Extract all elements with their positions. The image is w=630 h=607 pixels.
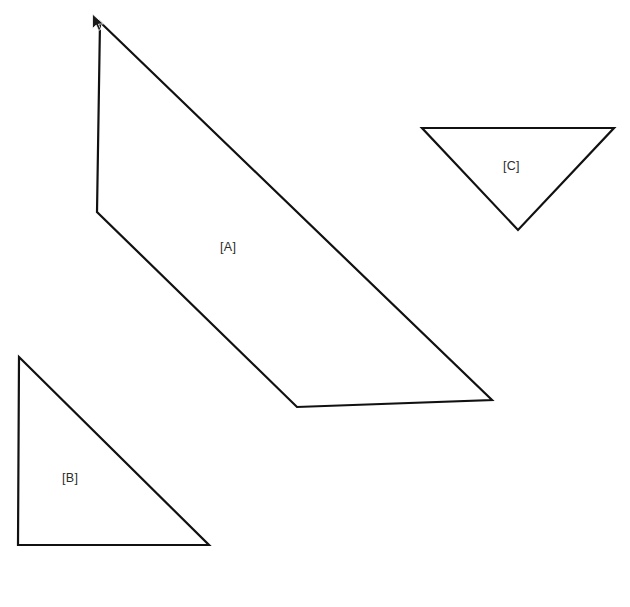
shape-label-b: [B]: [62, 471, 78, 485]
shape-polygon-c[interactable]: [422, 128, 614, 230]
shape-polygon-a[interactable]: [97, 22, 492, 407]
diagram-app: Build a Solum [A] [B] [C]: [0, 0, 630, 607]
shape-label-a: [A]: [220, 240, 236, 254]
shape-polygon-b[interactable]: [18, 357, 209, 545]
shape-label-c: [C]: [503, 159, 520, 173]
figure-canvas: [0, 0, 630, 607]
